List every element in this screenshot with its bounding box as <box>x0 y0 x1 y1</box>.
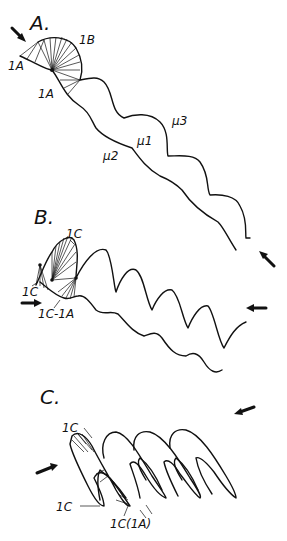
fold-4 <box>170 430 236 498</box>
label-1c-left: 1C <box>22 285 39 299</box>
label-1c-1a: 1C(1A) <box>110 517 151 531</box>
label-1a-left: 1A <box>8 59 24 73</box>
arrow-icon <box>234 407 254 415</box>
label-1a-bottom: 1A <box>38 87 54 101</box>
arrow-icon <box>259 251 274 266</box>
arrow-icon <box>37 463 58 473</box>
panel-b: B. 1C 1C 1C-1A <box>22 205 266 372</box>
panel-c-label: C. <box>40 385 60 409</box>
arrow-icon <box>12 28 26 42</box>
hinge-point <box>38 263 42 267</box>
label-mu3: μ3 <box>171 114 187 128</box>
label-mu2: μ2 <box>102 149 118 163</box>
hinge-point <box>50 278 54 282</box>
hinge-point <box>50 68 54 72</box>
panel-c: C. 1C 1C 1C(1A) <box>37 385 254 531</box>
panel-a-label: A. <box>28 11 50 35</box>
panel-b-label: B. <box>34 205 54 229</box>
fold-3 <box>134 432 201 498</box>
label-1b: 1B <box>79 33 95 47</box>
label-1c-bottom: 1C <box>56 500 73 514</box>
label-mu1: μ1 <box>136 134 152 148</box>
fan-lines-a <box>20 37 80 94</box>
leader-line <box>124 506 128 516</box>
label-1c-top: 1C <box>62 421 79 435</box>
arrow-icon <box>246 304 266 312</box>
label-1c-1a: 1C-1A <box>38 307 74 321</box>
arrow-icon <box>22 299 42 307</box>
label-1c-top: 1C <box>66 227 83 241</box>
wave-upper <box>36 238 246 348</box>
fold-diagram: A. 1B 1A 1A μ3 μ1 μ2 <box>0 0 287 541</box>
hinge-point <box>74 276 78 280</box>
